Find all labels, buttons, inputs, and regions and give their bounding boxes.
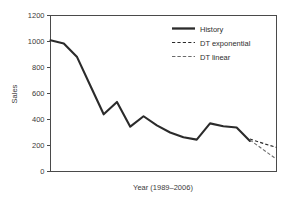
y-tick-label: 1000 xyxy=(28,37,45,46)
y-tick-label: 600 xyxy=(32,89,45,98)
legend-label-dt-exponential: DT exponential xyxy=(200,39,251,48)
y-tick-label: 400 xyxy=(32,115,45,124)
legend-label-dt-linear: DT linear xyxy=(200,53,231,62)
legend-label-history: History xyxy=(200,25,224,34)
sales-forecast-chart: 020040060080010001200 Sales Year (1989–2… xyxy=(0,0,292,201)
y-tick-label: 200 xyxy=(32,141,45,150)
y-tick-label: 1200 xyxy=(28,11,45,20)
y-tick-label: 800 xyxy=(32,63,45,72)
y-tick-label: 0 xyxy=(40,167,44,176)
x-axis-title: Year (1989–2006) xyxy=(133,183,193,192)
chart-container: 020040060080010001200 Sales Year (1989–2… xyxy=(0,0,292,201)
y-axis-title: Sales xyxy=(10,84,19,103)
